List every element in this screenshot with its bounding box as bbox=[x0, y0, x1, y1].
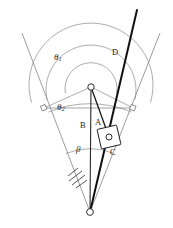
label-theta2: θ2 bbox=[57, 103, 65, 113]
label-theta1: θ1 bbox=[54, 53, 62, 63]
radius-line-left bbox=[44, 87, 91, 108]
label-point-d: D bbox=[112, 48, 118, 57]
label-point-c: C bbox=[110, 148, 116, 157]
diagram-canvas bbox=[0, 0, 173, 228]
ground-hatching bbox=[68, 168, 87, 188]
label-point-a: A bbox=[95, 118, 101, 127]
label-point-b: B bbox=[80, 121, 86, 130]
right-angle-marker-left bbox=[40, 104, 47, 111]
right-angle-marker-right bbox=[130, 104, 137, 111]
slider-joint bbox=[106, 134, 112, 140]
label-beta: β bbox=[76, 145, 80, 154]
bottom-pivot-joint bbox=[87, 209, 94, 216]
top-pivot-joint bbox=[88, 84, 94, 90]
link-b bbox=[90, 87, 91, 212]
mechanism-diagram: θ1 θ2 β A B C D bbox=[0, 0, 173, 228]
slider-block-group bbox=[97, 125, 121, 149]
